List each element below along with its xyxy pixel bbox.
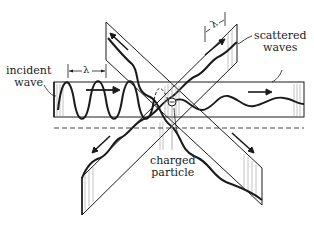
scattered-plane-up-right [82, 24, 237, 215]
incident-label-line2: wave [6, 77, 51, 89]
incident-wave-label: incident wave [6, 65, 51, 89]
incident-wavelength-label: λ [83, 64, 89, 76]
scattered-waves-label: scattered waves [254, 30, 307, 54]
scattered-label-line2: waves [254, 42, 307, 54]
particle-label-line2: particle [150, 167, 196, 179]
charged-particle-label: charged particle [150, 155, 196, 179]
